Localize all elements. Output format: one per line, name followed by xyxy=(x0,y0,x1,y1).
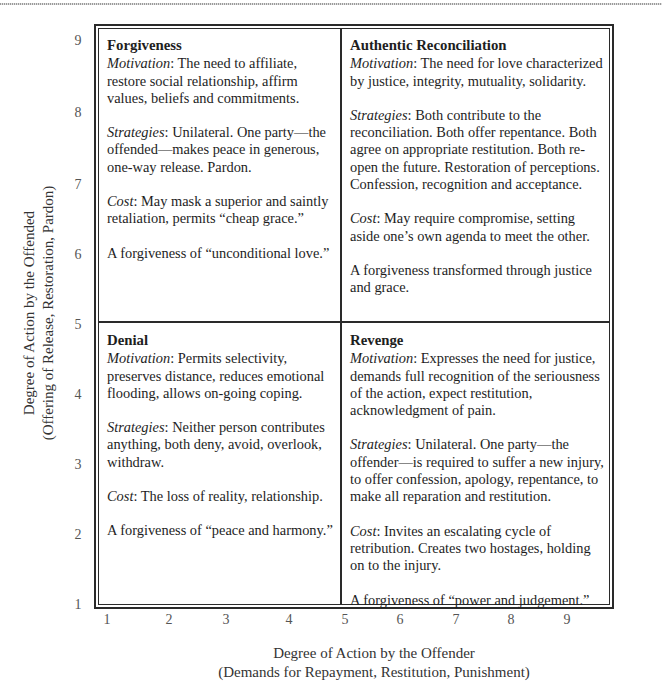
x-axis-label-line2: (Demands for Repayment, Restitution, Pun… xyxy=(94,663,654,682)
cost-label: Cost xyxy=(350,210,376,226)
motivation-text: Motivation: Expresses the need for justi… xyxy=(350,350,605,419)
motivation-text: Motivation: Permits selectivity, preserv… xyxy=(107,350,334,402)
y-tick-8: 8 xyxy=(72,105,84,121)
strategies-text: Strategies: Unilateral. One party—the of… xyxy=(350,436,605,505)
top-dotted-rule xyxy=(0,3,662,5)
quadrant-title: Authentic Reconciliation xyxy=(350,37,605,54)
quadrant-revenge: Revenge Motivation: Expresses the need f… xyxy=(342,323,609,604)
quadrant-frame: Forgiveness Motivation: The need to affi… xyxy=(94,24,614,609)
y-tick-5: 5 xyxy=(72,317,84,333)
strategies-label: Strategies xyxy=(107,419,165,435)
quadrant-grid: Forgiveness Motivation: The need to affi… xyxy=(98,28,610,605)
summary-text: A forgiveness of “peace and harmony.” xyxy=(107,522,334,539)
x-tick-9: 9 xyxy=(560,612,574,628)
x-tick-4: 4 xyxy=(282,612,296,628)
quadrant-title: Revenge xyxy=(350,332,605,349)
cost-text: Cost: The loss of reality, relationship. xyxy=(107,488,334,505)
y-tick-7: 7 xyxy=(72,177,84,193)
x-tick-8: 8 xyxy=(504,612,518,628)
cost-text: Cost: May require compromise, setting as… xyxy=(350,210,605,245)
quadrant-title: Forgiveness xyxy=(107,37,334,54)
x-tick-2: 2 xyxy=(162,612,176,628)
y-axis-label-line2: (Offering of Release, Restoration, Pardo… xyxy=(39,186,58,441)
summary-text: A forgiveness of “power and judgement.” xyxy=(350,592,605,609)
y-tick-9: 9 xyxy=(72,33,84,49)
cost-text: Cost: Invites an escalating cycle of ret… xyxy=(350,523,605,575)
x-tick-6: 6 xyxy=(393,612,407,628)
x-axis-label: Degree of Action by the Offender (Demand… xyxy=(94,644,654,682)
motivation-label: Motivation xyxy=(107,350,170,366)
cost-label: Cost xyxy=(107,488,133,504)
x-axis-label-line1: Degree of Action by the Offender xyxy=(94,644,654,663)
motivation-label: Motivation xyxy=(107,55,170,71)
strategies-text: Strategies: Unilateral. One party—the of… xyxy=(107,124,334,176)
x-tick-1: 1 xyxy=(100,612,114,628)
motivation-label: Motivation xyxy=(350,350,413,366)
strategies-text: Strategies: Both contribute to the recon… xyxy=(350,107,605,193)
motivation-text: Motivation: The need to affiliate, resto… xyxy=(107,55,334,107)
summary-text: A forgiveness of “unconditional love.” xyxy=(107,245,334,262)
x-tick-5: 5 xyxy=(338,612,352,628)
motivation-label: Motivation xyxy=(350,55,413,71)
quadrant-denial: Denial Motivation: Permits selectivity, … xyxy=(99,323,340,604)
strategies-label: Strategies xyxy=(350,436,408,452)
x-tick-3: 3 xyxy=(219,612,233,628)
y-tick-1: 1 xyxy=(72,597,84,613)
y-tick-2: 2 xyxy=(72,527,84,543)
cost-label: Cost xyxy=(350,523,376,539)
quadrant-title: Denial xyxy=(107,332,334,349)
y-axis-label-line1: Degree of Action by the Offended xyxy=(20,186,39,441)
strategies-text: Strategies: Neither person contributes a… xyxy=(107,419,334,471)
y-tick-4: 4 xyxy=(72,387,84,403)
strategies-label: Strategies xyxy=(350,107,408,123)
y-tick-3: 3 xyxy=(72,457,84,473)
quadrant-forgiveness: Forgiveness Motivation: The need to affi… xyxy=(99,29,340,321)
y-tick-6: 6 xyxy=(72,247,84,263)
cost-text: Cost: May mask a superior and saintly re… xyxy=(107,193,334,228)
x-tick-7: 7 xyxy=(449,612,463,628)
strategies-label: Strategies xyxy=(107,124,165,140)
quadrant-authentic-reconciliation: Authentic Reconciliation Motivation: The… xyxy=(342,29,609,321)
summary-text: A forgiveness transformed through justic… xyxy=(350,262,605,297)
motivation-text: Motivation: The need for love characteri… xyxy=(350,55,605,90)
cost-label: Cost xyxy=(107,193,133,209)
